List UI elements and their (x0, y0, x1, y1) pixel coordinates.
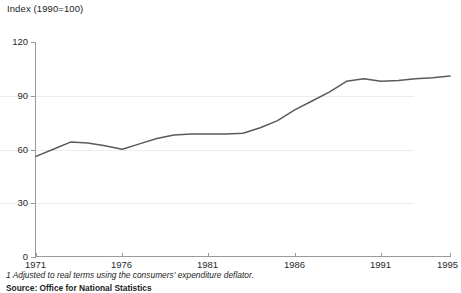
x-tick-1995 (450, 253, 451, 257)
y-axis-label-120: 120 (4, 37, 28, 46)
y-axis-label-30: 30 (4, 198, 28, 207)
y-tick-60 (31, 150, 36, 151)
gridline-90 (0, 96, 414, 97)
y-tick-30 (31, 203, 36, 204)
chart-source: Source: Office for National Statistics (6, 283, 152, 293)
x-axis-label-1991: 1991 (370, 259, 391, 270)
x-tick-1971 (36, 253, 37, 257)
y-tick-90 (31, 96, 36, 97)
chart-footnote: 1 Adjusted to real terms using the consu… (6, 270, 254, 280)
y-axis-label-90: 90 (4, 91, 28, 100)
series-layer (0, 0, 461, 293)
y-tick-120 (31, 42, 36, 43)
x-axis-label-1995: 1995 (437, 259, 458, 270)
x-axis-line (36, 256, 450, 257)
x-axis-label-1971: 1971 (25, 259, 46, 270)
x-tick-1991 (381, 253, 382, 257)
x-tick-1981 (208, 253, 209, 257)
chart-axis-title: Index (1990=100) (7, 3, 83, 14)
x-tick-1986 (295, 253, 296, 257)
x-axis-label-1976: 1976 (111, 259, 132, 270)
x-axis-label-1981: 1981 (197, 259, 218, 270)
x-axis-label-1986: 1986 (284, 259, 305, 270)
chart-container: Index (1990=100) 120 90 60 30 0 1971 197… (0, 0, 461, 293)
data-line-index (36, 76, 450, 156)
x-tick-1976 (122, 253, 123, 257)
gridline-60 (0, 150, 414, 151)
gridline-30 (0, 203, 414, 204)
y-axis-label-60: 60 (4, 145, 28, 154)
